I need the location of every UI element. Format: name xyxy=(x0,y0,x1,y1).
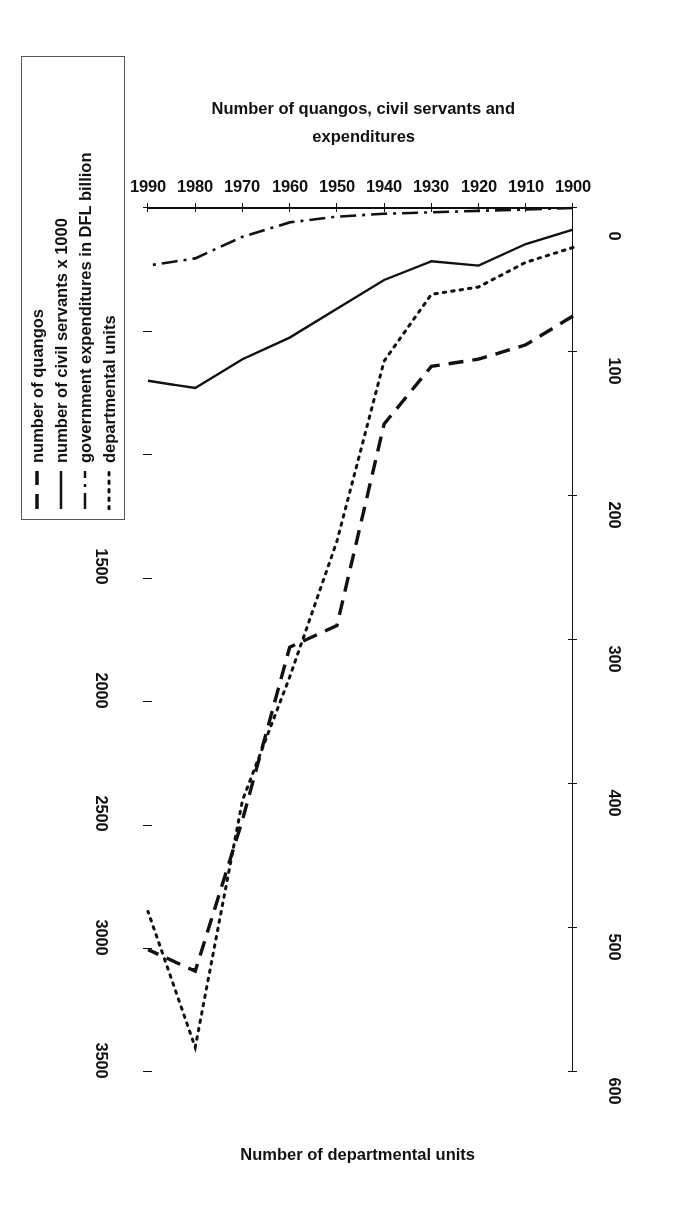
axis-tick xyxy=(143,825,152,826)
left-tick-label: 0 xyxy=(606,181,625,241)
axis-tick xyxy=(568,1071,577,1072)
right-tick-label: 2500 xyxy=(93,796,112,860)
axis-tick xyxy=(525,203,526,212)
axis-tick xyxy=(568,927,577,928)
left-tick-label: 500 xyxy=(606,901,625,961)
left-tick-label: 600 xyxy=(606,1045,625,1105)
axis-tick xyxy=(242,203,243,212)
axis-tick xyxy=(336,203,337,212)
axis-tick xyxy=(289,203,290,212)
right-axis-title: Number of departmental units xyxy=(240,1145,475,1164)
x-tick-label: 1950 xyxy=(311,177,363,196)
axis-tick xyxy=(568,783,577,784)
right-tick-label: 2000 xyxy=(93,672,112,736)
left-tick-label: 300 xyxy=(606,613,625,673)
x-tick-label: 1930 xyxy=(405,177,457,196)
axis-tick xyxy=(143,948,152,949)
axis-tick xyxy=(195,203,196,212)
axis-tick xyxy=(143,207,152,208)
axis-tick xyxy=(384,203,385,212)
x-tick-label: 1960 xyxy=(264,177,316,196)
legend-item-label: number of civil servants x 1000 xyxy=(52,218,71,463)
axis-tick xyxy=(478,203,479,212)
x-tick-label: 1990 xyxy=(122,177,174,196)
legend-entries: number of quangosnumber of civil servant… xyxy=(21,56,125,520)
left-axis-title-line2: expenditures xyxy=(312,127,415,146)
legend-item-label: government expenditures in DFL billion xyxy=(76,153,95,463)
legend-line-dashdot-icon xyxy=(79,470,91,510)
legend-item[interactable]: number of civil servants x 1000 xyxy=(52,66,71,510)
axis-tick xyxy=(568,351,577,352)
legend-item-label: number of quangos xyxy=(28,309,47,463)
left-tick-label: 200 xyxy=(606,469,625,529)
x-tick-label: 1900 xyxy=(547,177,599,196)
axis-tick xyxy=(143,454,152,455)
x-tick-label: 1920 xyxy=(453,177,505,196)
legend-item[interactable]: departmental units xyxy=(100,66,119,510)
legend-rotated-wrapper: number of quangosnumber of civil servant… xyxy=(0,236,305,340)
axis-tick xyxy=(568,207,577,208)
x-tick-label: 1970 xyxy=(216,177,268,196)
legend-line-dashed-icon xyxy=(31,470,43,510)
x-tick-label: 1910 xyxy=(500,177,552,196)
left-tick-label: 400 xyxy=(606,757,625,817)
legend-line-solid-icon xyxy=(55,470,67,510)
legend-line-dotted-icon xyxy=(103,470,115,510)
legend-item[interactable]: government expenditures in DFL billion xyxy=(76,66,95,510)
left-tick-label: 100 xyxy=(606,325,625,385)
right-tick-label: 3500 xyxy=(93,1043,112,1107)
x-tick-label: 1980 xyxy=(169,177,221,196)
left-axis-title: Number of quangos, civil servants and xyxy=(212,99,516,118)
legend-item-label: departmental units xyxy=(100,315,119,463)
series-line xyxy=(148,316,573,971)
legend-item[interactable]: number of quangos xyxy=(28,66,47,510)
axis-tick xyxy=(143,701,152,702)
right-tick-label: 3000 xyxy=(93,919,112,983)
axis-tick xyxy=(143,1071,152,1072)
x-tick-label: 1940 xyxy=(358,177,410,196)
axis-tick xyxy=(568,495,577,496)
right-tick-label: 1500 xyxy=(93,549,112,613)
axis-tick xyxy=(431,203,432,212)
axis-tick xyxy=(568,639,577,640)
axis-tick xyxy=(143,578,152,579)
figure-page: 1900191019201930194019501960197019801990… xyxy=(0,0,683,1208)
figure-canvas: 1900191019201930194019501960197019801990… xyxy=(0,0,683,1208)
series-line xyxy=(148,248,573,1048)
